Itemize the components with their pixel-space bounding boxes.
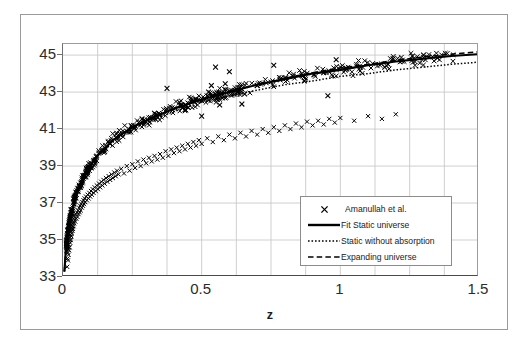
- x-axis-label-0.5: 0.5: [190, 281, 211, 296]
- y-axis-label-45: 45: [16, 46, 56, 61]
- legend-label-fit-static: Fit Static universe: [341, 221, 409, 230]
- x-axis-label-1.5: 1.5: [468, 281, 489, 296]
- y-axis-label-41: 41: [16, 120, 56, 135]
- legend-item-static-no-absorption: Static without absorption: [307, 233, 447, 249]
- y-axis-label-35: 35: [16, 231, 56, 246]
- legend-item-expanding: Expanding universe: [307, 249, 447, 265]
- y-axis-label-33: 33: [16, 268, 56, 283]
- y-axis-label-39: 39: [16, 157, 56, 172]
- marker-x-icon: [307, 205, 341, 214]
- y-axis-label-43: 43: [16, 83, 56, 98]
- chart-figure: 33353739414345 00.511.5 z Amanullah et a…: [0, 0, 528, 348]
- x-axis-label-1: 1: [335, 281, 343, 296]
- legend-label-expanding: Expanding universe: [341, 253, 417, 262]
- legend-label-static-no-absorption: Static without absorption: [341, 237, 435, 246]
- y-axis-label-37: 37: [16, 194, 56, 209]
- legend-item-fit-static: Fit Static universe: [307, 217, 447, 233]
- x-axis-tick-labels: 00.511.5: [62, 281, 478, 305]
- dashed-line-icon: [307, 253, 341, 261]
- dotted-line-icon: [307, 237, 341, 245]
- legend-item-amanullah: Amanullah et al.: [307, 201, 447, 217]
- y-tick-mark: [57, 276, 62, 277]
- solid-line-icon: [307, 221, 341, 229]
- legend-label-amanullah: Amanullah et al.: [345, 205, 407, 214]
- x-axis-label-0: 0: [58, 281, 66, 296]
- legend: Amanullah et al. Fit Static universe Sta…: [300, 196, 452, 266]
- y-axis-tick-labels: 33353739414345: [10, 43, 56, 276]
- x-axis-title: z: [62, 308, 478, 322]
